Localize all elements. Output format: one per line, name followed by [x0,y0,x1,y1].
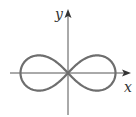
x-axis-label: x [124,79,132,95]
y-axis-label: y [54,6,64,22]
lemniscate-figure: y x [0,0,136,117]
y-axis [65,9,72,115]
